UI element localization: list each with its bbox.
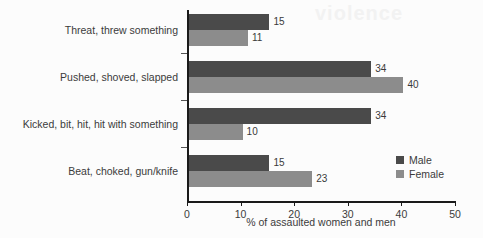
bar-value-label: 23 xyxy=(312,171,327,187)
bar-value-label: 10 xyxy=(243,124,258,140)
category-label: Pushed, shoved, slapped xyxy=(60,71,178,83)
x-axis-title: % of assaulted women and men xyxy=(187,216,455,228)
bar-value-label: 34 xyxy=(371,61,386,77)
bar-group-row: 3440 xyxy=(189,61,455,93)
legend-label-male: Male xyxy=(409,154,432,166)
bar-female xyxy=(189,77,403,93)
bar-female xyxy=(189,124,243,140)
bar-value-label: 15 xyxy=(269,155,284,171)
bar-group-row: 1511 xyxy=(189,14,455,46)
bar-male xyxy=(189,155,269,171)
bar-male xyxy=(189,61,371,77)
legend-item-male: Male xyxy=(396,153,444,166)
legend-item-female: Female xyxy=(396,167,444,180)
bar-male xyxy=(189,108,371,124)
bar-value-label: 11 xyxy=(248,30,262,46)
bar-group-row: 3410 xyxy=(189,108,455,140)
legend-label-female: Female xyxy=(409,168,444,180)
bar-chart: violence Threat, threw somethingPushed, … xyxy=(0,0,483,238)
category-label: Threat, threw something xyxy=(65,24,178,36)
x-axis-tick xyxy=(187,201,188,206)
bar-female xyxy=(189,171,312,187)
x-axis-tick xyxy=(294,201,295,206)
legend-swatch-female-icon xyxy=(396,170,404,178)
category-label: Kicked, bit, hit, hit with something xyxy=(23,118,178,130)
bar-value-label: 40 xyxy=(403,77,418,93)
bar-male xyxy=(189,14,269,30)
bar-value-label: 15 xyxy=(269,14,284,30)
bar-value-label: 34 xyxy=(371,108,386,124)
x-axis-tick xyxy=(348,201,349,206)
chart-legend: Male Female xyxy=(396,153,444,181)
x-axis-tick xyxy=(401,201,402,206)
category-label: Beat, choked, gun/knife xyxy=(68,165,178,177)
bar-female xyxy=(189,30,248,46)
x-axis-tick xyxy=(455,201,456,206)
x-axis-tick xyxy=(241,201,242,206)
category-tick xyxy=(181,53,187,54)
legend-swatch-male-icon xyxy=(396,156,404,164)
category-tick xyxy=(181,100,187,101)
category-tick xyxy=(181,147,187,148)
x-axis-line xyxy=(187,201,455,203)
